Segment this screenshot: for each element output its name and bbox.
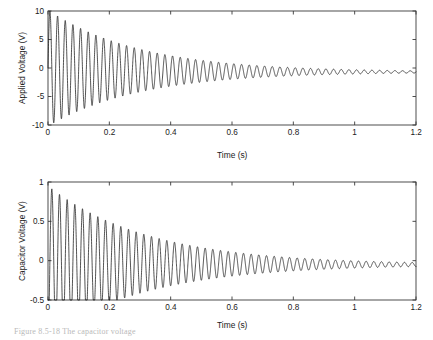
y-tick-label: 1 (39, 178, 44, 187)
x-tick-label: 0.8 (288, 303, 299, 312)
data-line-capacitor-voltage (48, 189, 416, 300)
data-line-applied-voltage (48, 11, 416, 123)
x-tick-label: 0.4 (165, 303, 176, 312)
figure-caption: Figure 8.5-18 The capacitor voltage (14, 327, 136, 336)
x-axis-label-capacitor-voltage: Time (s) (217, 320, 247, 330)
x-tick-label: 0.2 (104, 303, 115, 312)
plot-area-capacitor-voltage (0, 168, 433, 328)
y-tick-label: 0 (39, 64, 44, 73)
y-tick-label: -0.5 (30, 296, 44, 305)
y-tick-label: -10 (32, 121, 44, 130)
x-axis-label-applied-voltage: Time (s) (217, 150, 247, 160)
x-tick-label: 1 (352, 128, 357, 137)
x-tick-label: 0.2 (104, 128, 115, 137)
y-tick-label: 0 (39, 256, 44, 265)
x-tick-label: 1.2 (411, 303, 422, 312)
plot-area-applied-voltage (0, 0, 433, 160)
axes-frame (48, 11, 416, 125)
x-tick-label: 0 (46, 303, 51, 312)
x-tick-label: 1 (352, 303, 357, 312)
x-tick-label: 0 (46, 128, 51, 137)
figure-container: Applied Voltage (V) Time (s) 00.20.40.60… (0, 0, 433, 340)
chart-panel-capacitor-voltage: Capacitor Voltage (V) Time (s) 00.20.40.… (0, 168, 433, 328)
y-axis-label-capacitor-voltage: Capacitor Voltage (V) (18, 201, 27, 281)
x-tick-label: 0.8 (288, 128, 299, 137)
y-axis-label-applied-voltage: Applied Voltage (V) (18, 32, 27, 104)
x-tick-label: 0.6 (227, 128, 238, 137)
y-tick-label: 10 (35, 7, 44, 16)
x-tick-label: 0.4 (165, 128, 176, 137)
x-tick-label: 0.6 (227, 303, 238, 312)
y-tick-label: 0.5 (33, 217, 44, 226)
chart-panel-applied-voltage: Applied Voltage (V) Time (s) 00.20.40.60… (0, 0, 433, 160)
y-tick-label: -5 (37, 92, 44, 101)
y-tick-label: 5 (39, 35, 44, 44)
x-tick-label: 1.2 (411, 128, 422, 137)
